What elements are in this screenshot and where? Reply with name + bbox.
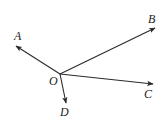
labels-group: ABCDO [13,12,156,119]
ray-oc [60,74,153,84]
ray-ob [60,28,155,74]
ray-diagram: ABCDO [0,0,167,119]
point-label-c: C [144,87,153,101]
ray-oa [16,46,60,74]
rays-group [16,28,155,103]
point-label-o: O [49,74,58,88]
point-label-a: A [13,29,22,43]
point-label-d: D [59,105,69,119]
ray-od [60,74,66,103]
point-label-b: B [148,12,156,26]
diagram-svg: ABCDO [0,0,167,119]
